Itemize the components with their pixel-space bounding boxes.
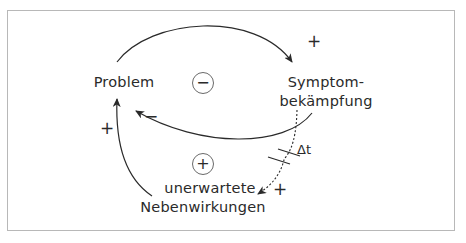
polarity-symptom-to-problem: − <box>144 108 158 125</box>
delay-bar-2 <box>268 157 290 164</box>
arrow-symptom-to-problem <box>136 111 312 139</box>
node-symptom-treatment: Symptom- bekämpfung <box>278 73 374 111</box>
polarity-symptom-to-sideeffects: + <box>273 181 287 198</box>
plus-icon: + <box>196 154 209 173</box>
balancing-loop-badge: − <box>192 72 214 94</box>
arrow-problem-to-symptom <box>117 26 292 62</box>
node-problem: Problem <box>88 73 160 92</box>
node-side-effects: unerwartete Nebenwirkungen <box>142 179 270 217</box>
polarity-problem-to-symptom: + <box>307 33 321 50</box>
minus-icon: − <box>196 73 209 92</box>
polarity-sideeffects-to-problem: + <box>100 120 114 137</box>
node-symptom-line2: bekämpfung <box>278 92 374 111</box>
node-problem-label: Problem <box>94 74 155 90</box>
reinforcing-loop-badge: + <box>192 153 214 175</box>
node-side-effects-line2: Nebenwirkungen <box>136 198 270 217</box>
node-side-effects-line1: unerwartete <box>142 179 270 198</box>
node-symptom-line1: Symptom- <box>278 73 374 92</box>
delay-label: Δt <box>297 143 311 157</box>
